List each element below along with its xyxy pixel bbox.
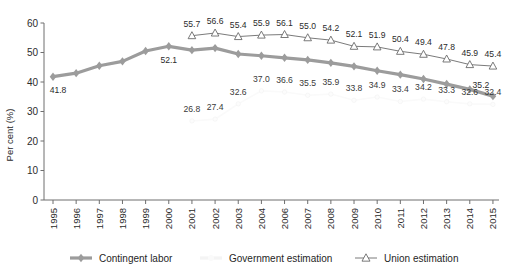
data-point-label: 26.8: [184, 104, 201, 114]
data-point-marker: [351, 62, 358, 70]
data-point-label: 32.6: [461, 87, 478, 97]
data-point-marker: [236, 102, 240, 106]
x-axis-tick-label: 2011: [395, 208, 406, 228]
data-point-marker: [328, 59, 335, 67]
data-point-label: 52.1: [346, 29, 363, 39]
x-axis-tick-label: 2004: [256, 208, 267, 229]
data-point-label: 56.6: [207, 16, 224, 26]
data-point-marker: [212, 44, 219, 52]
data-point-marker: [491, 102, 495, 106]
data-point-marker: [211, 29, 219, 36]
data-point-marker: [352, 98, 356, 102]
data-point-label: 51.9: [369, 30, 386, 40]
data-labels-group: 41.852.135.226.827.432.637.036.635.535.9…: [50, 16, 502, 114]
data-point-marker: [444, 100, 448, 104]
x-axis-tick-label: 2000: [163, 208, 174, 229]
data-point-marker: [329, 92, 333, 96]
legend-label: Union estimation: [384, 253, 458, 264]
x-axis-tick-label: 1995: [48, 208, 59, 229]
y-axis-tick-label: 0: [32, 195, 38, 206]
y-axis-tick-label: 60: [27, 18, 39, 29]
data-point-marker: [96, 62, 103, 70]
data-point-label: 27.4: [207, 102, 224, 112]
data-point-label: 35.9: [322, 77, 339, 87]
x-axis-tick-label: 1999: [140, 208, 151, 229]
x-axis-tick-label: 2006: [279, 208, 290, 229]
y-axis-tick-label: 30: [27, 106, 39, 117]
data-point-marker: [258, 52, 265, 60]
legend-label: Contingent labor: [99, 253, 173, 264]
y-axis-tick-label: 50: [27, 47, 39, 58]
data-point-label: 34.2: [415, 82, 432, 92]
y-axis-tick-label: 10: [27, 165, 39, 176]
data-point-label: 33.4: [392, 84, 409, 94]
data-point-label: 50.4: [392, 34, 409, 44]
data-point-label: 55.7: [184, 19, 201, 29]
data-point-label: 36.6: [276, 75, 293, 85]
y-axis-tick-label: 40: [27, 77, 39, 88]
chart-container: 0102030405060 19951996199719981999200020…: [0, 0, 507, 273]
data-point-label: 32.6: [230, 87, 247, 97]
data-point-label: 41.8: [50, 85, 67, 95]
y-axis: 0102030405060: [27, 18, 44, 206]
x-axis-tick-label: 2010: [372, 208, 383, 229]
data-point-marker: [259, 89, 263, 93]
x-axis-tick-label: 2014: [464, 208, 475, 229]
data-point-label: 32.4: [485, 87, 502, 97]
x-axis-tick-label: 2003: [233, 208, 244, 229]
data-point-label: 34.9: [369, 80, 386, 90]
x-axis-tick-label: 2009: [349, 208, 360, 229]
data-point-marker: [213, 117, 217, 121]
data-point-label: 45.4: [485, 49, 502, 59]
x-axis-tick-label: 2001: [186, 208, 197, 229]
data-point-marker: [398, 99, 402, 103]
data-point-marker: [282, 90, 286, 94]
line-chart-plot: 0102030405060 19951996199719981999200020…: [0, 0, 507, 273]
data-point-label: 37.0: [253, 74, 270, 84]
data-point-marker: [166, 42, 173, 50]
x-axis-tick-label: 1998: [117, 208, 128, 229]
data-point-label: 56.1: [276, 18, 293, 28]
data-point-label: 54.2: [322, 23, 339, 33]
data-point-marker: [421, 97, 425, 101]
x-axis-tick-label: 1997: [94, 208, 105, 229]
data-point-label: 33.8: [346, 83, 363, 93]
data-point-marker: [119, 57, 126, 65]
x-axis-tick-label: 2007: [302, 208, 313, 229]
x-axis-tick-label: 2013: [441, 208, 452, 229]
data-point-label: 52.1: [160, 55, 177, 65]
data-point-marker: [306, 93, 310, 97]
data-point-marker: [189, 46, 196, 54]
x-axis-tick-label: 2012: [418, 208, 429, 229]
x-axis-tick-label: 2008: [325, 208, 336, 229]
x-axis: 1995199619971998199920002001200220032004…: [44, 200, 499, 229]
data-point-marker: [73, 69, 80, 77]
data-point-marker: [142, 47, 149, 55]
chart-legend: Contingent laborGovernment estimationUni…: [70, 253, 458, 264]
data-point-marker: [304, 56, 311, 64]
x-axis-tick-label: 1996: [71, 208, 82, 229]
data-point-marker: [375, 95, 379, 99]
legend-item-contingent-labor[interactable]: Contingent labor: [70, 253, 173, 264]
data-point-marker: [190, 119, 194, 123]
y-axis-title: Per cent (%): [4, 109, 15, 162]
legend-item-union-estimation[interactable]: Union estimation: [355, 253, 458, 264]
x-axis-tick-label: 2002: [210, 208, 221, 229]
data-point-label: 47.8: [438, 42, 455, 52]
data-point-label: 35.5: [299, 78, 316, 88]
data-point-marker: [281, 31, 289, 38]
data-point-label: 55.9: [253, 18, 270, 28]
data-point-marker: [374, 67, 381, 75]
legend-item-government-estimation[interactable]: Government estimation: [200, 253, 332, 264]
data-point-label: 49.4: [415, 37, 432, 47]
data-point-label: 45.9: [461, 48, 478, 58]
data-point-marker: [281, 54, 288, 62]
legend-label: Government estimation: [229, 253, 332, 264]
y-axis-tick-label: 20: [27, 136, 39, 147]
data-point-marker: [468, 102, 472, 106]
data-point-marker: [235, 50, 242, 58]
data-point-label: 55.4: [230, 20, 247, 30]
data-point-label: 55.0: [299, 21, 316, 31]
data-point-marker: [397, 70, 404, 78]
data-point-label: 33.3: [438, 85, 455, 95]
